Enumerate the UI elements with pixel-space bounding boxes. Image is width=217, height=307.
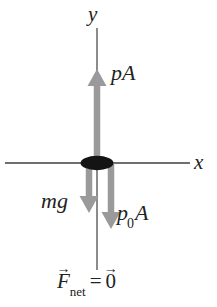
force-arrow-pA-head <box>88 69 107 86</box>
vector-arrow-icon-rhs: → <box>104 262 118 276</box>
force-label-mg: mg <box>41 190 68 212</box>
vector-arrow-icon: → <box>56 262 70 276</box>
y-axis-label: y <box>88 4 97 25</box>
net-force-equation: →Fnet=→0 <box>57 271 116 295</box>
piston-ellipse <box>81 156 114 170</box>
force-label-p0A-tail: A <box>135 200 148 225</box>
force-arrow-pA <box>88 69 107 163</box>
force-label-pA: pA <box>111 62 135 84</box>
free-body-diagram-figure: y x pA mg p0A →Fnet=→0 <box>0 0 217 307</box>
equation-relation: = <box>86 269 106 293</box>
force-arrow-mg-head <box>80 196 99 213</box>
equation-rhs-symbol: →0 <box>106 271 117 292</box>
force-label-p0A: p0A <box>117 202 148 228</box>
equation-lhs-subscript: net <box>70 284 86 299</box>
force-label-p0A-subscript: 0 <box>127 216 134 231</box>
x-axis-label: x <box>194 152 203 173</box>
equation-lhs-symbol: →F <box>57 271 70 292</box>
force-arrow-mg <box>80 163 99 213</box>
